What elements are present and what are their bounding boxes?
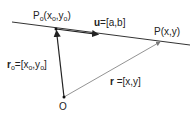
line-vector-diagram: Po(xo,yo) u=[a,b] P(x,y) ro=[xo,yo] r =[… — [0, 0, 196, 113]
label-r0-vector: ro=[xo,yo] — [7, 59, 47, 71]
label-p0: Po(xo,yo) — [33, 10, 71, 22]
label-u-vector: u=[a,b] — [94, 17, 126, 28]
r-vector-arrow — [64, 42, 160, 97]
u-vector-arrow — [56, 29, 98, 34]
label-p: P(x,y) — [154, 26, 180, 37]
r0-vector-arrow — [57, 31, 65, 97]
label-origin: O — [59, 101, 67, 112]
point-p0-dot — [55, 28, 58, 31]
label-r-vector: r =[x,y] — [110, 76, 141, 87]
point-o-dot — [63, 96, 66, 99]
